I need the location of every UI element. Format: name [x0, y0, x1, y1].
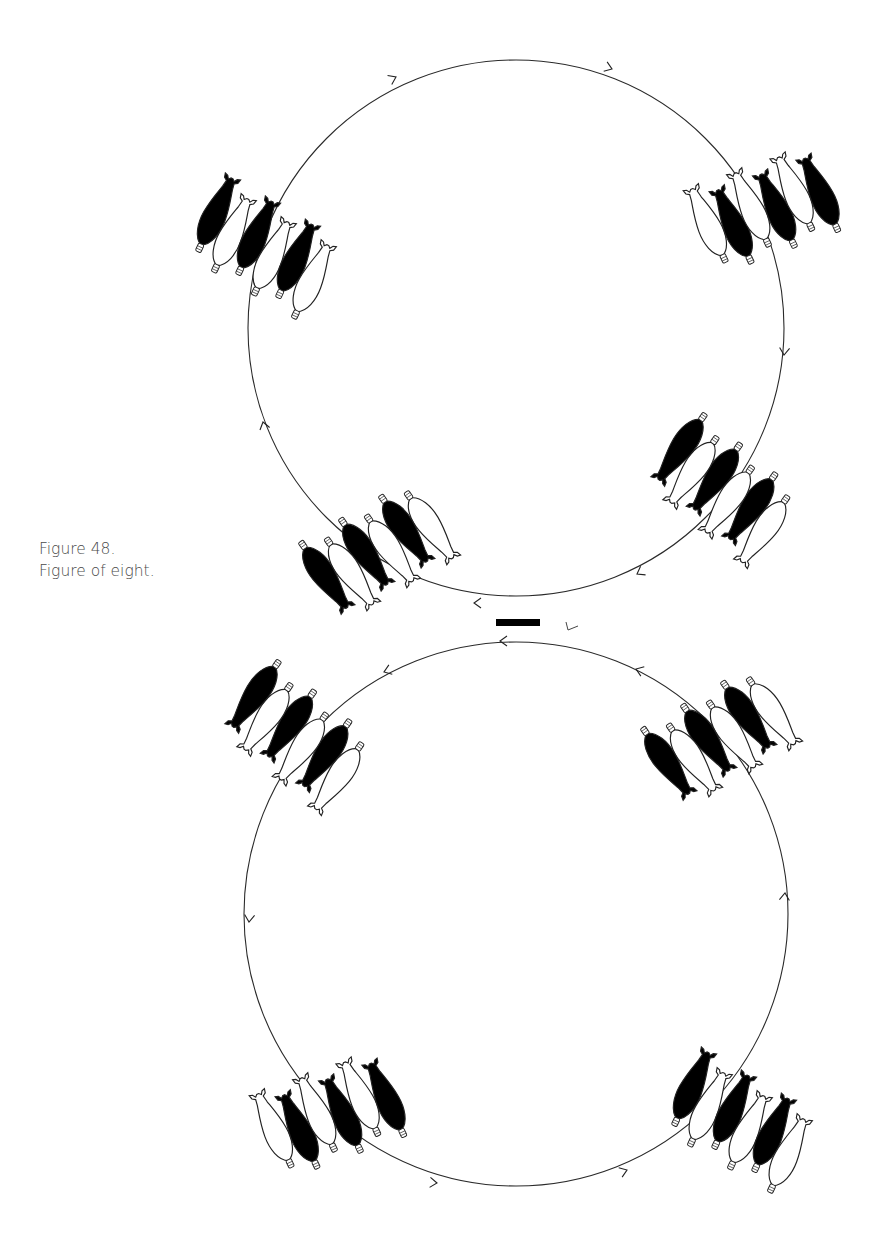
figure-of-eight-diagram	[0, 0, 881, 1245]
lower-left-bottom-group	[246, 1039, 415, 1191]
lower-left-top-group	[211, 654, 383, 818]
arrowhead-icon	[779, 348, 790, 356]
center-marker-bar	[496, 619, 540, 626]
mid-right-group	[637, 407, 809, 571]
arrowhead-icon	[619, 1165, 629, 1177]
arrowhead-icon	[474, 598, 481, 608]
lower-right-top-group	[633, 655, 805, 819]
bomb-formations	[179, 134, 849, 1198]
arrowhead-icon	[244, 915, 255, 923]
figure-number: Figure 48.	[39, 538, 155, 560]
figure-title: Figure of eight.	[39, 560, 155, 582]
top-left-group	[179, 172, 348, 324]
arrowhead-icon	[430, 1177, 438, 1188]
top-right-group	[680, 134, 849, 286]
arrowhead-icon	[604, 62, 614, 74]
arrowhead-icon	[388, 72, 399, 84]
mid-left-group	[291, 469, 463, 633]
figure-caption: Figure 48. Figure of eight.	[39, 538, 155, 582]
arrowhead-icon	[779, 893, 790, 901]
top-circle	[248, 60, 784, 596]
truncated-body-text	[48, 1237, 838, 1245]
arrowhead-icon	[500, 636, 507, 646]
direction-tick-icon	[566, 622, 578, 630]
lower-right-bottom-group	[655, 1046, 824, 1198]
